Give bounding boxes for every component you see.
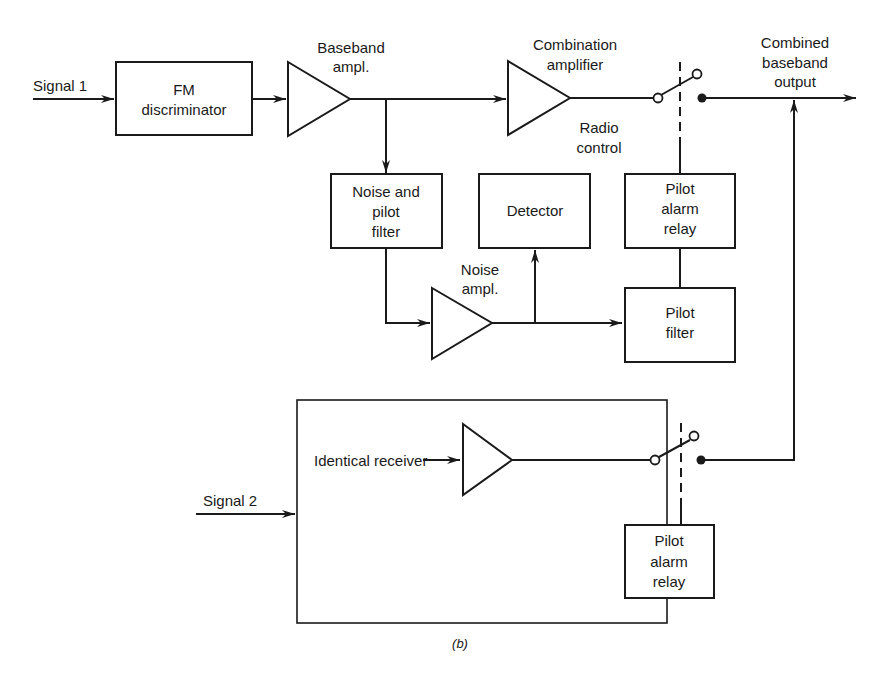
pilot-alarm-relay-1-block: Pilot alarm relay (625, 174, 735, 248)
fm-discriminator-block: FM discriminator (116, 62, 252, 135)
signal-2-input: Signal 2 (196, 492, 295, 514)
switch-contact-open-icon (654, 94, 663, 103)
switch-2 (512, 423, 706, 525)
receiver-2-to-output-arrow (701, 100, 794, 460)
relay-2-label-2: alarm (650, 553, 688, 570)
pilot-filter-label-1: Pilot (665, 304, 695, 321)
noise-amplifier: Noise ampl. (432, 261, 499, 359)
baseband-ampl-label-2: ampl. (333, 58, 370, 75)
identical-receiver-label: Identical receiver (314, 452, 427, 469)
block-diagram: Signal 1 FM discriminator Baseband ampl.… (0, 0, 889, 674)
noise-filter-label-3: filter (372, 223, 400, 240)
signal-1-label: Signal 1 (33, 77, 87, 94)
noise-filter-label-2: pilot (372, 203, 400, 220)
switch-contact-open-icon (693, 70, 702, 79)
signal-2-label: Signal 2 (203, 492, 257, 509)
fm-discriminator-label-2: discriminator (141, 101, 226, 118)
radio-control-label-2: control (576, 139, 621, 156)
signal-1-input: Signal 1 (33, 77, 114, 99)
combined-output-label-2: baseband (762, 54, 828, 71)
relay-1-label-2: alarm (661, 200, 699, 217)
pilot-alarm-relay-2-block: Pilot alarm relay (625, 525, 714, 598)
amplifier-triangle-icon (432, 288, 492, 359)
relay-2-label-1: Pilot (654, 532, 684, 549)
switch-contact-open-icon (690, 432, 699, 441)
combination-amplifier-label-1: Combination (533, 36, 617, 53)
noise-filter-to-noise-amp-arrow (386, 248, 430, 323)
noise-pilot-filter-block: Noise and pilot filter (331, 174, 442, 248)
baseband-amplifier: Baseband ampl. (288, 39, 385, 136)
relay-2-label-3: relay (653, 573, 686, 590)
radio-control-label-1: Radio (579, 119, 618, 136)
pilot-filter-label-2: filter (666, 324, 694, 341)
combination-amplifier-label-2: amplifier (547, 56, 604, 73)
fm-discriminator-label-1: FM (173, 81, 195, 98)
combined-output-label: Combined baseband output (761, 34, 829, 90)
switch-contact-open-icon (651, 456, 660, 465)
relay-1-label-3: relay (664, 220, 697, 237)
amplifier-triangle-icon (463, 424, 512, 495)
combined-output-label-1: Combined (761, 34, 829, 51)
baseband-ampl-label-1: Baseband (317, 39, 385, 56)
receiver-2-amplifier (463, 424, 512, 495)
combined-output-label-3: output (774, 73, 817, 90)
noise-filter-label-1: Noise and (352, 183, 420, 200)
noise-ampl-label-1: Noise (461, 261, 499, 278)
relay-1-label-1: Pilot (665, 180, 695, 197)
noise-ampl-label-2: ampl. (462, 280, 499, 297)
identical-receiver-box (297, 400, 667, 623)
figure-caption: (b) (452, 636, 468, 651)
detector-label: Detector (507, 202, 564, 219)
detector-block: Detector (479, 174, 590, 248)
pilot-filter-block: Pilot filter (625, 288, 735, 362)
